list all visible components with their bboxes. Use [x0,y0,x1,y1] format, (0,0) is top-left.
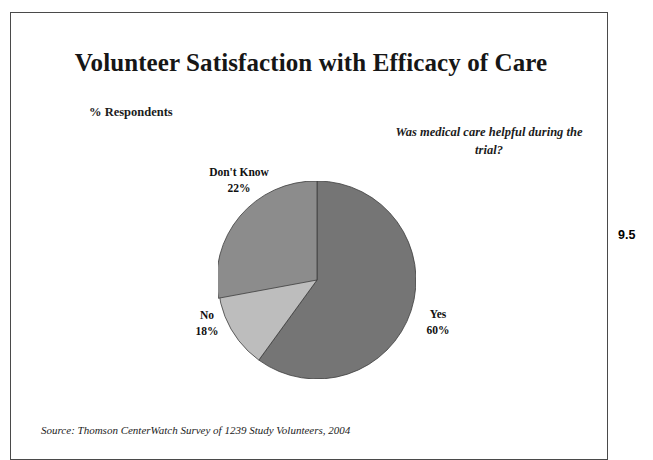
pie-chart [218,181,416,379]
pie-label-no-name: No [200,309,214,321]
source-note: Source: Thomson CenterWatch Survey of 12… [41,424,350,436]
pie-label-dont-know: Don't Know 22% [187,165,291,196]
slide-frame: Volunteer Satisfaction with Efficacy of … [10,12,608,460]
pie-label-yes-value: 60% [410,323,466,339]
pie-label-yes: Yes 60% [410,307,466,338]
pie-slice-dont-know[interactable] [218,181,317,298]
units-label: % Respondents [89,105,173,120]
pie-label-no-value: 18% [178,324,236,340]
page-number: 9.5 [618,228,635,242]
pie-label-dont-know-name: Don't Know [209,166,269,178]
pie-label-yes-name: Yes [430,308,447,320]
pie-label-no: No 18% [178,308,236,339]
pie-label-dont-know-value: 22% [187,181,291,197]
page-title: Volunteer Satisfaction with Efficacy of … [51,48,571,79]
question-annotation: Was medical care helpful during the tria… [383,123,595,159]
